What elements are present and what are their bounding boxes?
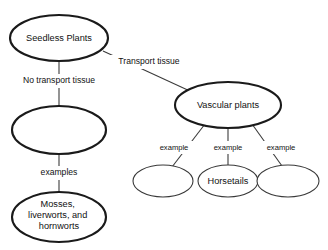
node-horsetails[interactable]: Horsetails xyxy=(198,165,258,197)
node-seedless-plants[interactable]: Seedless Plants xyxy=(10,15,108,61)
node-nonvascular-plants-shape[interactable] xyxy=(12,106,106,154)
edge-label-examples-text: examples xyxy=(41,167,78,177)
node-seedless-plants-label: Seedless Plants xyxy=(26,33,92,43)
edge-label-transport-tissue-text: Transport tissue xyxy=(118,56,180,66)
node-mosses-liverworts-hornworts[interactable]: Mosses, liverworts, and hornworts xyxy=(12,192,106,242)
node-mosses-line-1: Mosses, xyxy=(41,199,75,209)
node-example-left-shape[interactable] xyxy=(133,165,193,197)
node-example-right-shape[interactable] xyxy=(257,165,319,197)
node-vascular-plants-label: Vascular plants xyxy=(197,100,260,110)
edge-label-example-middle-text: example xyxy=(214,143,243,152)
edge-label-example-middle: example xyxy=(200,141,256,154)
edge-label-examples: examples xyxy=(26,166,92,180)
node-horsetails-label: Horsetails xyxy=(208,176,249,186)
edge-label-example-right: example xyxy=(253,141,309,154)
node-vascular-plants[interactable]: Vascular plants xyxy=(175,82,281,128)
edge-label-example-right-text: example xyxy=(267,143,296,152)
node-example-left[interactable] xyxy=(133,165,193,197)
edge-label-example-left: example xyxy=(146,141,202,154)
edge-label-transport-tissue: Transport tissue xyxy=(105,55,193,69)
node-group: Seedless Plants Mosses, liverworts, and … xyxy=(10,15,319,242)
node-example-right[interactable] xyxy=(257,165,319,197)
node-mosses-line-2: liverworts, and xyxy=(28,210,87,220)
concept-map-diagram: No transport tissue Transport tissue exa… xyxy=(0,0,328,250)
edge-label-example-left-text: example xyxy=(160,143,189,152)
node-mosses-line-3: hornworts xyxy=(39,221,80,231)
concept-map-canvas: No transport tissue Transport tissue exa… xyxy=(0,0,328,250)
node-nonvascular-plants[interactable] xyxy=(12,106,106,154)
edge-label-no-transport-tissue-text: No transport tissue xyxy=(23,75,95,85)
edge-label-no-transport-tissue: No transport tissue xyxy=(6,74,112,88)
